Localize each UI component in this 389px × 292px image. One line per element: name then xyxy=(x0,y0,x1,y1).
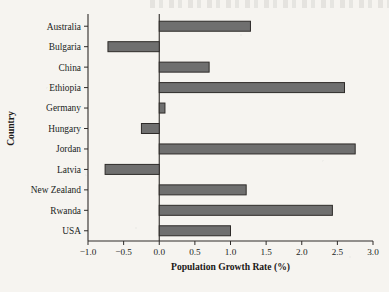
bar-latvia xyxy=(105,164,159,174)
y-axis-ticks xyxy=(84,26,88,231)
x-tick-label: 3.0 xyxy=(367,247,379,257)
bar-bulgaria xyxy=(108,42,159,52)
x-tick-label: 0.5 xyxy=(189,247,201,257)
bar-rwanda xyxy=(159,205,332,215)
x-tick-label: 1.0 xyxy=(225,247,237,257)
x-tick-label: 2.5 xyxy=(332,247,344,257)
y-tick-label: Germany xyxy=(46,103,81,113)
y-tick-label: Bulgaria xyxy=(49,42,82,52)
y-tick-label: Rwanda xyxy=(50,206,82,216)
y-tick-label: Jordan xyxy=(56,144,81,154)
x-tick-label: 1.5 xyxy=(260,247,272,257)
y-tick-label: Ethiopia xyxy=(49,83,82,93)
x-axis-title: Population Growth Rate (%) xyxy=(171,261,290,273)
y-tick-label: USA xyxy=(62,226,81,236)
bar-series xyxy=(105,21,355,236)
x-tick-label: 0.0 xyxy=(154,247,166,257)
x-tick-label: −0.5 xyxy=(115,247,132,257)
y-tick-label: Hungary xyxy=(48,124,81,134)
bar-new-zealand xyxy=(159,185,246,195)
y-tick-label: Latvia xyxy=(57,165,82,175)
bar-australia xyxy=(159,21,250,31)
y-axis-tick-labels: AustraliaBulgariaChinaEthiopiaGermanyHun… xyxy=(31,22,82,237)
x-tick-label: −1.0 xyxy=(80,247,97,257)
y-tick-label: Australia xyxy=(47,22,82,32)
bar-jordan xyxy=(159,144,355,154)
x-axis-tick-labels: −1.0−0.50.00.51.01.52.02.53.0 xyxy=(80,247,379,257)
y-tick-label: China xyxy=(59,63,82,73)
bar-ethiopia xyxy=(159,83,344,93)
bar-china xyxy=(159,62,209,72)
y-tick-label: New Zealand xyxy=(31,185,82,195)
bar-hungary xyxy=(141,124,159,134)
x-tick-label: 2.0 xyxy=(296,247,308,257)
x-axis-ticks xyxy=(88,241,373,245)
population-growth-bar-chart: AustraliaBulgariaChinaEthiopiaGermanyHun… xyxy=(0,0,389,292)
bar-germany xyxy=(159,103,165,113)
bar-usa xyxy=(159,226,230,236)
y-axis-title: Country xyxy=(5,111,16,146)
